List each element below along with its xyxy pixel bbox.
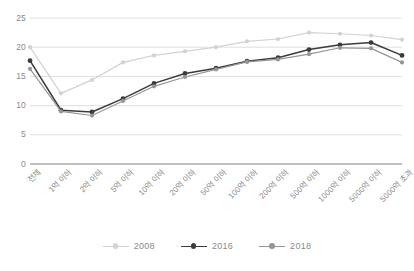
data-point bbox=[245, 39, 249, 43]
line-chart: 2520151050 전체1억 이하2억 이하5억 이하10억 이하20억 이하… bbox=[0, 0, 414, 271]
y-axis-tick-label: 5 bbox=[0, 130, 26, 139]
legend-label: 2016 bbox=[212, 241, 233, 251]
chart-legend: 200820162018 bbox=[0, 236, 414, 256]
data-point bbox=[90, 113, 94, 117]
data-point bbox=[245, 60, 249, 64]
data-point bbox=[183, 75, 187, 79]
chart-plot-svg bbox=[30, 18, 402, 164]
data-point bbox=[214, 45, 218, 49]
data-point bbox=[28, 67, 32, 71]
data-point bbox=[90, 78, 94, 82]
data-point bbox=[28, 45, 32, 49]
y-axis: 2520151050 bbox=[0, 18, 26, 164]
y-axis-tick-label: 15 bbox=[0, 72, 26, 81]
legend-item-2018[interactable]: 2018 bbox=[259, 241, 311, 251]
data-point bbox=[183, 49, 187, 53]
legend-marker-icon bbox=[103, 241, 129, 251]
legend-label: 2018 bbox=[290, 241, 311, 251]
legend-item-2016[interactable]: 2016 bbox=[181, 241, 233, 251]
data-point bbox=[338, 32, 342, 36]
data-point bbox=[400, 53, 405, 58]
y-axis-tick-label: 0 bbox=[0, 160, 26, 169]
series-line-2016 bbox=[30, 43, 402, 112]
data-point bbox=[338, 46, 342, 50]
data-point bbox=[307, 47, 312, 52]
data-point bbox=[121, 60, 125, 64]
data-point bbox=[400, 38, 404, 42]
data-point bbox=[307, 31, 311, 35]
data-point bbox=[307, 52, 311, 56]
data-point bbox=[214, 67, 218, 71]
legend-dot bbox=[191, 243, 196, 248]
data-point bbox=[59, 109, 63, 113]
data-point bbox=[369, 46, 373, 50]
data-point bbox=[121, 99, 125, 103]
plot-area bbox=[30, 18, 402, 164]
x-axis: 전체1억 이하2억 이하5억 이하10억 이하20억 이하50억 이하100억 … bbox=[30, 166, 402, 228]
legend-dot bbox=[269, 243, 274, 248]
data-point bbox=[59, 91, 63, 95]
data-point bbox=[152, 53, 156, 57]
data-point bbox=[152, 84, 156, 88]
y-axis-tick-label: 10 bbox=[0, 101, 26, 110]
y-axis-tick-label: 25 bbox=[0, 14, 26, 23]
legend-marker-icon bbox=[259, 241, 285, 251]
legend-item-2008[interactable]: 2008 bbox=[103, 241, 155, 251]
data-point bbox=[276, 37, 280, 41]
series-line-2008 bbox=[30, 33, 402, 94]
legend-dot bbox=[113, 243, 118, 248]
legend-marker-icon bbox=[181, 241, 207, 251]
y-axis-tick-label: 20 bbox=[0, 43, 26, 52]
data-point bbox=[28, 58, 33, 63]
data-point bbox=[276, 57, 280, 61]
data-point bbox=[369, 40, 374, 45]
legend-label: 2008 bbox=[134, 241, 155, 251]
data-point bbox=[400, 60, 404, 64]
data-point bbox=[369, 33, 373, 37]
